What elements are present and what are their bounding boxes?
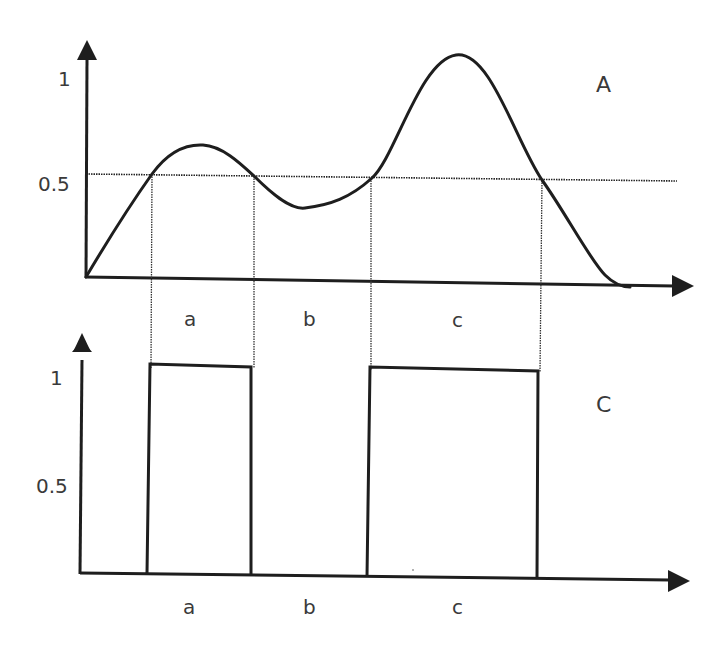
top-panel-label: A [596,72,611,97]
bottom-y-axis [80,360,82,574]
top-y-axis [86,60,87,278]
bottom-y-tick-1: 1 [50,366,63,390]
top-y-tick-0.5: 0.5 [38,172,70,196]
bottom-y-axis-arrowhead-icon [73,333,91,352]
threshold-line [86,174,677,181]
top-x-axis [85,277,675,286]
bottom-x-axis [80,573,670,580]
top-interval-b: b [303,307,316,331]
bottom-panel: 1 0.5 C a b c [36,333,690,619]
threshold-diagram: 1 0.5 A a b c 1 0.5 C a b c [0,0,726,652]
crossing-guides [151,174,542,372]
pulse-c [367,367,538,578]
top-interval-a: a [184,307,196,331]
bottom-interval-c: c [452,595,463,619]
top-x-axis-arrow-icon [672,275,694,297]
bottom-interval-b: b [303,595,316,619]
signal-curve [86,55,630,287]
top-y-axis-arrow-icon [77,40,97,60]
top-y-tick-1: 1 [58,67,71,91]
bottom-y-tick-0.5: 0.5 [36,474,68,498]
bottom-x-axis-arrow-icon [668,570,690,592]
bottom-panel-label: C [596,392,611,417]
top-interval-c: c [452,308,463,332]
bottom-interval-a: a [183,595,195,619]
pulse-a [147,364,251,575]
top-panel: 1 0.5 A a b c [38,40,694,372]
speck [412,569,414,571]
